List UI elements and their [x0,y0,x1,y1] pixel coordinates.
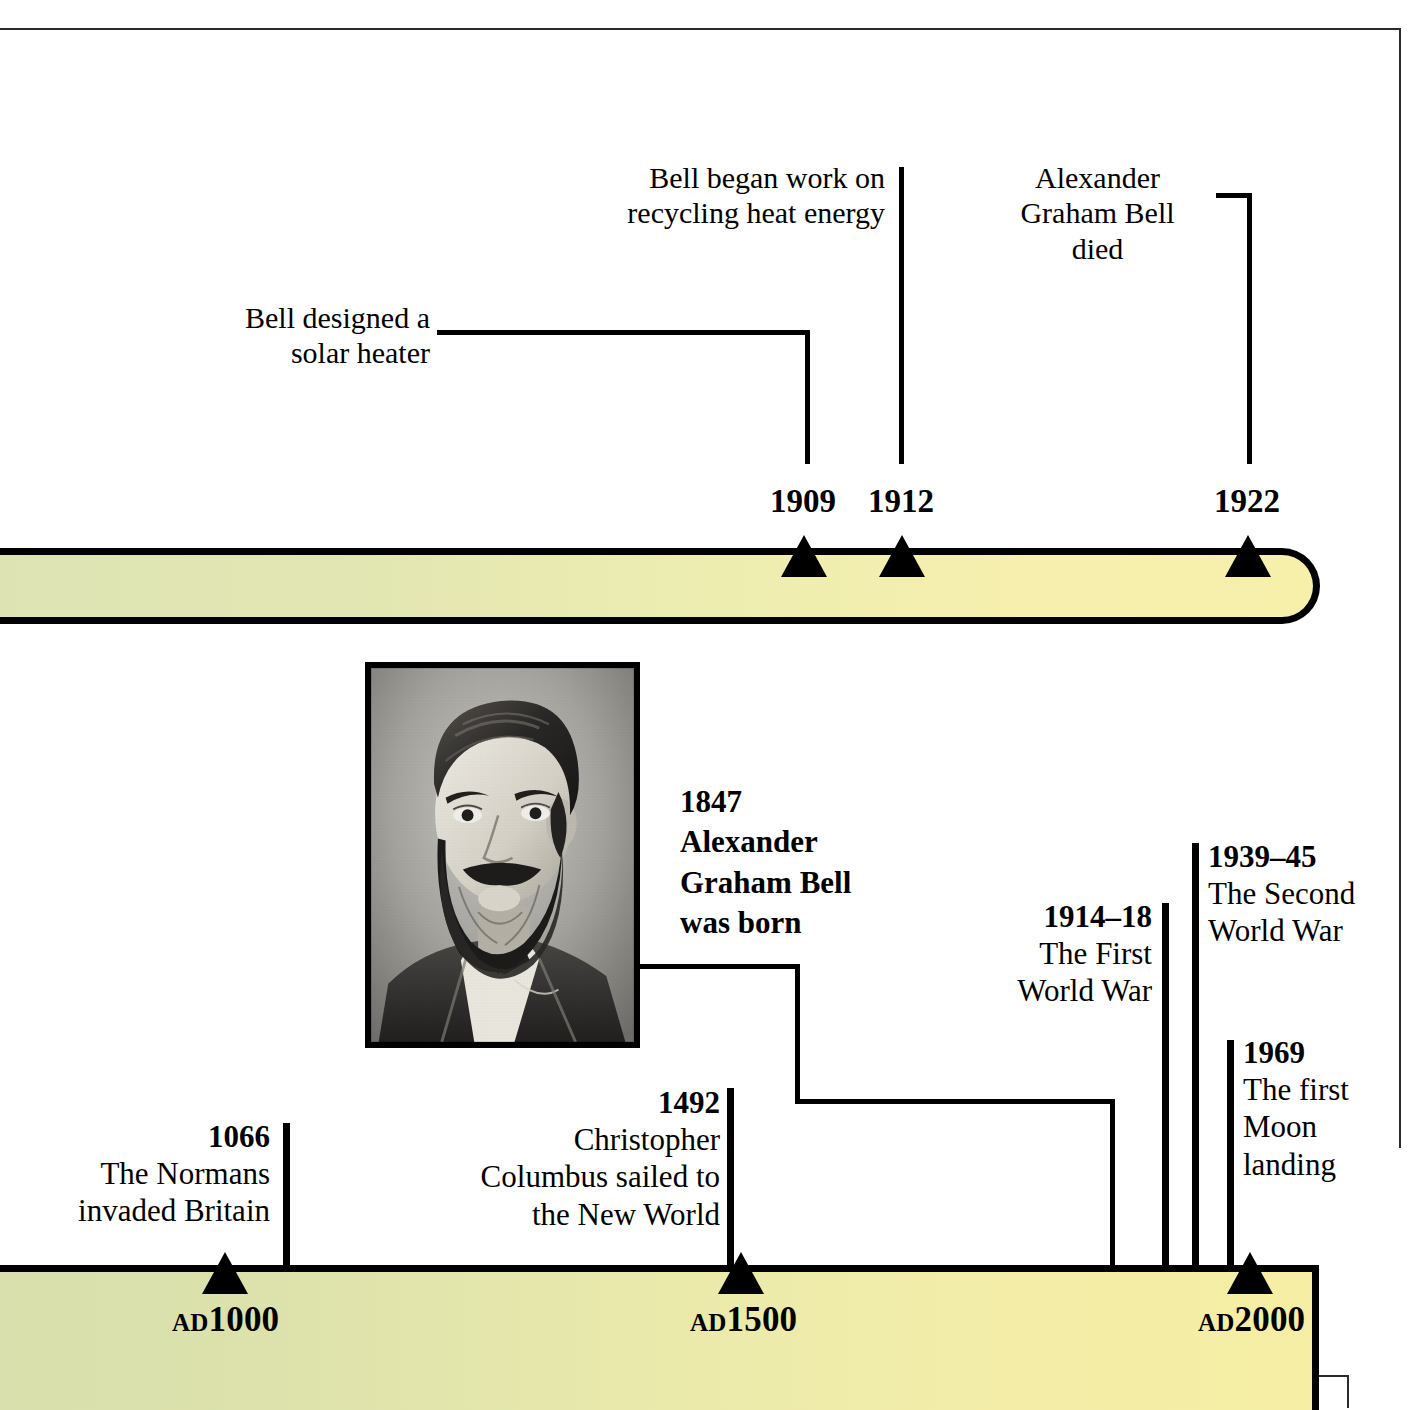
tick-normans [283,1123,290,1268]
timeline-bar-upper [0,548,1320,624]
tick-ww1 [1162,903,1169,1268]
event-year-1914-18: 1914–18 [930,898,1152,935]
year-label-1922: 1922 [1197,482,1297,521]
connector-bell-died-v [1247,193,1252,464]
connector-solar-heater-v [805,330,810,464]
page-border-right-stub [1347,1376,1349,1408]
page-border-bottom-stub [1317,1375,1349,1377]
annotation-recycling-heat: Bell began work on recycling heat energy [500,160,885,231]
marker-triangle-ad1000 [202,1252,248,1294]
marker-triangle-1922 [1225,535,1271,577]
event-year-1969: 1969 [1243,1034,1423,1071]
event-block-moon: 1969 The first Moon landing [1243,1034,1423,1183]
marker-triangle-1912 [879,535,925,577]
event-body-normans: The Normans invaded Britain [20,1155,270,1229]
marker-triangle-ad1500 [718,1252,764,1294]
tick-columbus [727,1088,734,1268]
era-year-1500: 1500 [727,1300,798,1339]
page-border-right [1399,28,1401,1148]
page-border-top [0,28,1400,30]
connector-recycling-heat-v [899,167,904,464]
event-body-columbus: Christopher Columbus sailed to the New W… [380,1121,720,1233]
era-prefix-ad1500: AD [690,1309,727,1336]
event-year-1939-45: 1939–45 [1208,838,1424,875]
event-year-1066: 1066 [20,1118,270,1155]
annotation-bell-died: Alexander Graham Bell died [985,160,1210,266]
year-label-1909: 1909 [753,482,853,521]
event-block-columbus: 1492 Christopher Columbus sailed to the … [380,1084,720,1233]
era-label-ad1000: AD1000 [172,1300,279,1340]
event-year-1847: 1847 [680,782,970,822]
event-year-1492: 1492 [380,1084,720,1121]
connector-bell-born-v1 [795,964,800,1103]
portrait-photo-alexander-graham-bell [365,662,640,1048]
event-body-moon: The first Moon landing [1243,1071,1423,1183]
era-prefix-ad2000: AD [1198,1309,1235,1336]
tick-moon [1227,1040,1234,1268]
connector-bell-born-v2 [1110,1099,1115,1266]
event-block-normans: 1066 The Normans invaded Britain [20,1118,270,1230]
event-block-ww1: 1914–18 The First World War [930,898,1152,1010]
tick-ww2 [1192,843,1199,1268]
event-block-bell-born: 1847 Alexander Graham Bell was born [680,782,970,943]
marker-triangle-ad2000 [1227,1252,1273,1294]
era-prefix-ad1000: AD [172,1309,209,1336]
era-label-ad1500: AD1500 [690,1300,797,1340]
connector-bell-born-h2 [795,1099,1115,1104]
connector-bell-born-h1 [640,964,800,969]
year-label-1912: 1912 [851,482,951,521]
marker-triangle-1909 [781,535,827,577]
annotation-solar-heater: Bell designed a solar heater [110,300,430,371]
era-label-ad2000: AD2000 [1198,1300,1305,1340]
event-body-ww2: The Second World War [1208,875,1424,949]
event-block-ww2: 1939–45 The Second World War [1208,838,1424,950]
era-year-1000: 1000 [209,1300,280,1339]
event-body-ww1: The First World War [930,935,1152,1009]
connector-solar-heater-h [437,330,810,335]
era-year-2000: 2000 [1235,1300,1306,1339]
event-body-bell-born: Alexander Graham Bell was born [680,822,970,943]
